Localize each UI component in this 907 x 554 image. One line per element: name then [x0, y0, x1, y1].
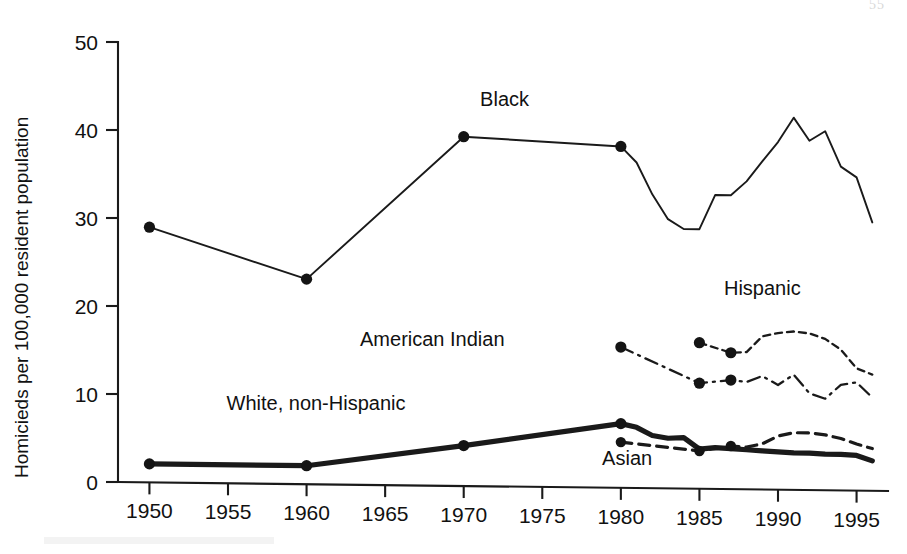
x-axis-line	[118, 482, 888, 491]
series-line-american-indian	[621, 347, 872, 399]
y-axis-tick-labels: 01020304050	[75, 31, 98, 494]
series-marker-asian	[694, 446, 704, 456]
x-axis-tick-labels: 1950195519601965197019751980198519901995	[126, 499, 880, 530]
y-axis-label: Homicieds per 100,000 resident populatio…	[11, 117, 32, 478]
series-marker-american-indian	[615, 341, 626, 352]
series-marker-white-non-hispanic	[144, 458, 155, 469]
x-tick-label-1975: 1975	[519, 504, 566, 527]
x-tick-label-1995: 1995	[833, 508, 880, 531]
series-marker-white-non-hispanic	[615, 418, 626, 429]
x-axis-ticks	[149, 482, 856, 502]
x-tick-label-1965: 1965	[362, 502, 409, 525]
series-marker-white-non-hispanic	[458, 440, 469, 451]
y-tick-label-40: 40	[75, 119, 98, 142]
series-label-hispanic: Hispanic	[724, 277, 801, 299]
series-marker-american-indian	[694, 378, 705, 389]
series-marker-black	[458, 131, 469, 142]
series-markers	[144, 131, 737, 471]
series-label-white-non-hispanic: White, non-Hispanic	[227, 392, 406, 414]
series-annotations: BlackAmerican IndianHispanicWhite, non-H…	[227, 88, 801, 469]
y-axis-ticks	[106, 42, 118, 482]
series-marker-hispanic	[694, 337, 705, 348]
x-tick-label-1980: 1980	[597, 505, 644, 528]
series-marker-white-non-hispanic	[301, 460, 312, 471]
x-tick-label-1950: 1950	[126, 499, 173, 522]
y-tick-label-10: 10	[75, 383, 98, 406]
y-tick-label-50: 50	[75, 31, 98, 54]
series-marker-asian	[726, 441, 736, 451]
series-marker-black	[301, 274, 312, 285]
x-tick-label-1970: 1970	[440, 503, 487, 526]
series-line-black	[149, 118, 872, 280]
x-tick-label-1955: 1955	[205, 500, 252, 523]
x-tick-label-1985: 1985	[676, 506, 723, 529]
line-chart: Homicieds per 100,000 resident populatio…	[0, 0, 907, 554]
x-tick-label-1960: 1960	[283, 501, 330, 524]
chart-figure: 55 Homicieds per 100,000 resident popula…	[0, 0, 907, 554]
series-label-black: Black	[480, 88, 530, 110]
series-marker-hispanic	[725, 347, 736, 358]
y-tick-label-0: 0	[86, 471, 98, 494]
series-label-american-indian: American Indian	[360, 328, 505, 350]
series-marker-asian	[616, 437, 626, 447]
x-tick-label-1990: 1990	[755, 507, 802, 530]
series-marker-black	[144, 222, 155, 233]
y-tick-label-20: 20	[75, 295, 98, 318]
y-tick-label-30: 30	[75, 207, 98, 230]
series-label-asian: Asian	[602, 447, 652, 469]
series-marker-american-indian	[725, 374, 736, 385]
series-marker-black	[615, 141, 626, 152]
